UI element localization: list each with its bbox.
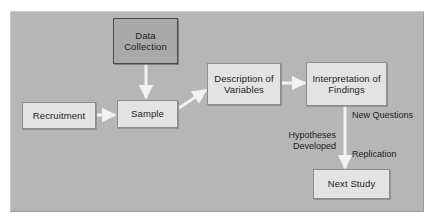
edge-label-hypotheses-developed: Hypotheses Developed (272, 130, 336, 152)
edge-label-replication: Replication (352, 149, 432, 160)
edge-label-new-questions: New Questions (352, 110, 432, 121)
arrow-sample-to-description (179, 90, 206, 108)
node-interpretation-of-findings-label: Interpretation of Findings (307, 73, 386, 96)
node-data-collection-label: Data Collection (114, 30, 177, 53)
node-description-of-variables-label: Description of Variables (208, 73, 280, 96)
node-sample[interactable]: Sample (117, 100, 178, 128)
node-next-study-label: Next Study (326, 178, 377, 190)
node-data-collection[interactable]: Data Collection (113, 18, 178, 64)
node-sample-label: Sample (129, 108, 166, 120)
node-recruitment[interactable]: Recruitment (22, 102, 96, 129)
node-recruitment-label: Recruitment (31, 110, 87, 122)
flowchart-canvas: Data Collection Recruitment Sample Descr… (0, 0, 434, 219)
node-next-study[interactable]: Next Study (313, 169, 390, 199)
node-interpretation-of-findings[interactable]: Interpretation of Findings (306, 62, 387, 106)
node-description-of-variables[interactable]: Description of Variables (207, 63, 281, 105)
